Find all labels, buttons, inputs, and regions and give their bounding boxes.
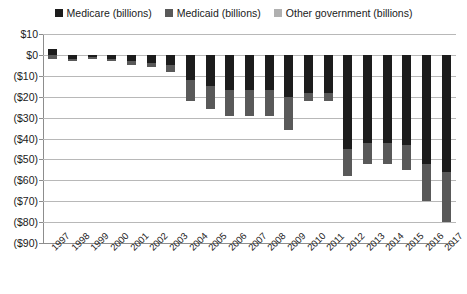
bar-column[interactable] <box>127 34 136 243</box>
bar-segment <box>186 55 195 80</box>
y-tick-label: ($90) <box>0 237 38 249</box>
bar-segment <box>343 55 352 149</box>
bar-segment <box>284 97 293 130</box>
bar-column[interactable] <box>225 34 234 243</box>
bar-segment <box>363 143 372 164</box>
bar-segment <box>343 149 352 176</box>
bar-segment <box>68 59 77 61</box>
legend-swatch-medicaid <box>165 9 173 17</box>
bar-column[interactable] <box>363 34 372 243</box>
bar-column[interactable] <box>245 34 254 243</box>
y-tick-label: ($80) <box>0 216 38 228</box>
y-tick-label: ($20) <box>0 91 38 103</box>
bar-column[interactable] <box>383 34 392 243</box>
bar-segment <box>402 55 411 145</box>
legend-item-medicare: Medicare (billions) <box>55 7 152 19</box>
legend-swatch-medicare <box>55 9 63 17</box>
bar-column[interactable] <box>206 34 215 243</box>
bar-segment <box>147 63 156 67</box>
legend-item-other-government: Other government (billions) <box>274 7 413 19</box>
bar-segment <box>127 61 136 65</box>
bar-segment <box>225 55 234 91</box>
bar-segment <box>422 55 431 164</box>
bar-segment <box>166 65 175 71</box>
bar-segment <box>88 57 97 59</box>
y-tick-label: ($50) <box>0 153 38 165</box>
bar-segment <box>324 55 333 93</box>
legend-label-other-government: Other government (billions) <box>286 7 413 19</box>
bar-segment <box>48 55 57 59</box>
bar-segment <box>304 55 313 93</box>
y-tick-label: $10 <box>0 28 38 40</box>
bar-segment <box>186 80 195 101</box>
bar-column[interactable] <box>442 34 451 243</box>
bar-column[interactable] <box>88 34 97 243</box>
bar-segment <box>402 145 411 170</box>
y-tick-label: ($40) <box>0 133 38 145</box>
bar-column[interactable] <box>402 34 411 243</box>
bar-segment <box>442 172 451 222</box>
y-tick-label: $0 <box>0 49 38 61</box>
bar-column[interactable] <box>324 34 333 243</box>
bar-column[interactable] <box>304 34 313 243</box>
bar-segment <box>363 55 372 143</box>
y-tick-label: ($70) <box>0 195 38 207</box>
bar-segment <box>265 90 274 115</box>
bar-column[interactable] <box>68 34 77 243</box>
bar-column[interactable] <box>284 34 293 243</box>
bar-segment <box>107 59 116 61</box>
legend-label-medicare: Medicare (billions) <box>67 7 152 19</box>
bar-column[interactable] <box>166 34 175 243</box>
x-axis-labels: 1997199819992000200120022003200420052006… <box>43 245 456 294</box>
bar-segment <box>304 93 313 101</box>
chart-legend: Medicare (billions) Medicaid (billions) … <box>0 7 467 19</box>
bar-column[interactable] <box>343 34 352 243</box>
chart-container: Medicare (billions) Medicaid (billions) … <box>0 0 467 294</box>
y-tick-mark <box>39 243 43 244</box>
bar-segment <box>284 55 293 97</box>
bar-segment <box>166 55 175 65</box>
y-tick-label: ($10) <box>0 70 38 82</box>
bar-column[interactable] <box>422 34 431 243</box>
plot-area <box>43 34 456 243</box>
legend-item-medicaid: Medicaid (billions) <box>165 7 261 19</box>
bar-segment <box>383 55 392 143</box>
bar-segment <box>383 143 392 164</box>
bar-segment <box>442 55 451 172</box>
y-tick-label: ($30) <box>0 112 38 124</box>
bar-segment <box>147 55 156 63</box>
bar-segment <box>324 93 333 101</box>
bar-column[interactable] <box>265 34 274 243</box>
bar-segment <box>225 90 234 115</box>
bar-segment <box>422 164 431 202</box>
bar-segment <box>245 55 254 91</box>
legend-label-medicaid: Medicaid (billions) <box>177 7 261 19</box>
bar-segment <box>206 86 215 109</box>
y-tick-label: ($60) <box>0 174 38 186</box>
bar-column[interactable] <box>147 34 156 243</box>
bar-column[interactable] <box>107 34 116 243</box>
bar-segment <box>206 55 215 86</box>
legend-swatch-other-government <box>274 9 282 17</box>
bar-column[interactable] <box>48 34 57 243</box>
y-axis-labels: $10$0($10)($20)($30)($40)($50)($60)($70)… <box>0 34 40 243</box>
bar-segment <box>245 90 254 115</box>
bar-column[interactable] <box>186 34 195 243</box>
bar-segment <box>265 55 274 91</box>
bar-series-group <box>43 34 456 243</box>
